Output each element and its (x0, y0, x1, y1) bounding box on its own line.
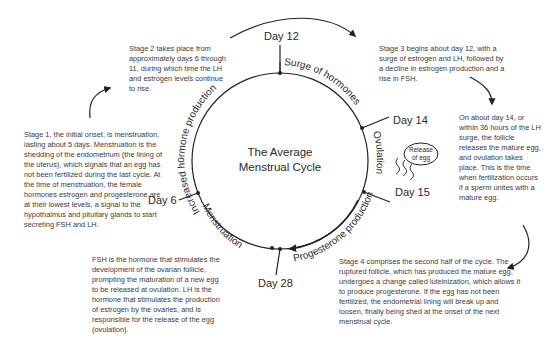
fsh-lh-note: FSH is the hormone that stimulates the d… (92, 255, 222, 335)
svg-text:Surge of hormones: Surge of hormones (284, 56, 363, 107)
egg-release-icon: Release of egg (396, 143, 438, 180)
phase-increased-hormone: Increased hormone production (175, 82, 218, 217)
diagram-title-line1: The Average (247, 146, 312, 158)
day-28-label: Day 28 (258, 277, 293, 289)
svg-text:Menstruation: Menstruation (200, 202, 244, 250)
day-15-label: Day 15 (395, 186, 430, 198)
svg-text:Progesterone production: Progesterone production (292, 190, 375, 263)
day-12-label: Day 12 (264, 30, 299, 42)
phase-ovulation: Ovulation (371, 130, 386, 175)
arrow-stage1-to-stage2 (90, 88, 110, 118)
day-14-label: Day 14 (393, 114, 428, 126)
diagram-title-line2: Menstrual Cycle (239, 161, 321, 173)
stage4-note: Stage 4 comprises the second half of the… (339, 257, 521, 327)
stage2-note: Stage 2 takes place from approximately d… (129, 44, 229, 94)
svg-text:Increased hormone production: Increased hormone production (175, 82, 218, 217)
phase-progesterone: Progesterone production (292, 190, 375, 263)
svg-text:of egg: of egg (412, 154, 430, 162)
stage3-note: Stage 3 begins about day 12, with a surg… (379, 44, 509, 84)
phase-menstruation: Menstruation (200, 202, 244, 250)
ovulation-note: On about day 14, or within 36 hours of t… (459, 113, 541, 203)
svg-text:Release: Release (409, 146, 433, 153)
svg-text:Ovulation: Ovulation (371, 130, 386, 175)
phase-surge: Surge of hormones (284, 56, 363, 107)
stage1-note: Stage 1, the initial onset, is menstruat… (24, 130, 164, 230)
